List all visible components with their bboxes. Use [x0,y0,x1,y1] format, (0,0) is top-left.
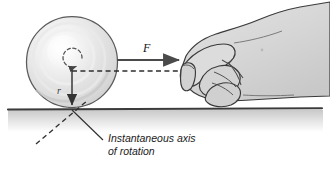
ball-highlight [47,35,81,69]
hand-pushing [180,2,330,107]
ground-line [8,108,322,109]
caption-block: Instantaneous axis of rotation [108,132,196,157]
caption-line-2: of rotation [108,145,155,157]
ground-shading [8,110,323,132]
hand-texture-dot [261,49,264,52]
physics-diagram-figure: r F Instantaneous axis of rotation [0,0,330,170]
force-arrow: F [117,41,179,60]
diagram-canvas: r F Instantaneous axis of rotation [0,0,330,170]
force-label: F [142,41,151,55]
radius-label: r [57,85,61,96]
caption-line-1: Instantaneous axis [108,132,196,144]
ground-surface [8,108,323,132]
